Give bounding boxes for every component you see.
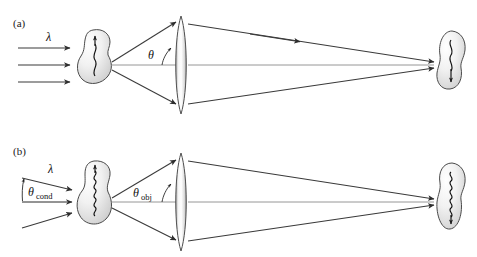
collection-rays-a: [112, 22, 176, 104]
condenser-angle-subscript: cond: [36, 191, 53, 201]
objective-angle-b: θ obj: [133, 184, 171, 202]
condenser-angle-symbol: θ: [28, 185, 34, 199]
panel-a: (a) λ θ: [13, 16, 465, 114]
panel-b-label: (b): [13, 145, 26, 158]
figure-canvas: (a) λ θ: [0, 0, 477, 257]
specimen-blob-a: [77, 30, 111, 84]
objective-angle-symbol: θ: [133, 186, 139, 200]
objective-lens-a: [176, 16, 187, 114]
specimen-blob-b: [77, 161, 111, 224]
detector-blob-b: [437, 163, 465, 229]
wavelength-symbol-a: λ: [45, 30, 51, 44]
wavelength-symbol-b: λ: [47, 162, 53, 176]
ray-diagram-svg: (a) λ θ: [0, 0, 477, 257]
objective-angle-subscript: obj: [141, 192, 152, 202]
image-rays-a: [188, 24, 434, 104]
image-rays-b: [188, 161, 434, 241]
illumination-rays-a: [18, 48, 70, 82]
panel-a-label: (a): [13, 17, 26, 30]
collection-angle-symbol-a: θ: [148, 48, 154, 62]
panel-b: (b) λ θ cond: [13, 145, 465, 251]
detector-blob-a: [437, 31, 465, 89]
collection-angle-a: θ: [148, 48, 171, 65]
objective-lens-b: [176, 153, 187, 251]
condenser-angle-label: θ cond: [28, 185, 53, 201]
